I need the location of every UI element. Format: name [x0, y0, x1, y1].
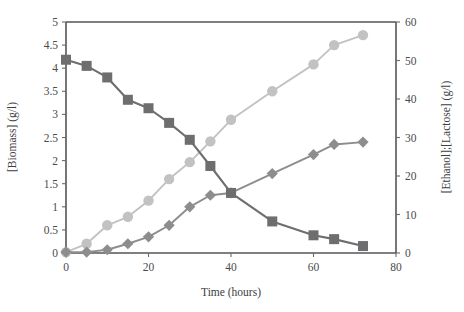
- data-point-marker: [205, 136, 215, 146]
- data-point-marker: [123, 212, 133, 222]
- data-point-marker: [358, 30, 368, 40]
- x-tick-label: 0: [63, 261, 69, 273]
- chart-figure: 00.511.522.533.544.55 0102030405060 0204…: [0, 0, 464, 312]
- data-point-marker: [185, 135, 195, 145]
- left-tick-label: 2.5: [44, 132, 59, 144]
- data-point-marker: [102, 72, 112, 82]
- fermentation-kinetics-chart: 00.511.522.533.544.55 0102030405060 0204…: [0, 0, 464, 312]
- data-point-marker: [226, 115, 236, 125]
- right-tick-label: 60: [405, 16, 417, 28]
- left-tick-label: 0: [52, 247, 58, 259]
- right-tick-label: 20: [405, 170, 417, 182]
- data-point-marker: [144, 103, 154, 113]
- right-tick-label: 40: [405, 93, 417, 105]
- data-point-marker: [358, 241, 368, 251]
- data-point-marker: [205, 161, 215, 171]
- data-point-marker: [329, 234, 339, 244]
- left-tick-label: 4.5: [44, 39, 59, 51]
- data-point-marker: [164, 118, 174, 128]
- data-point-marker: [309, 230, 319, 240]
- data-point-marker: [267, 86, 277, 96]
- data-point-marker: [308, 59, 318, 69]
- x-axis-title: Time (hours): [201, 286, 261, 299]
- right-tick-label: 30: [405, 132, 417, 144]
- data-point-marker: [143, 195, 153, 205]
- right-tick-label: 50: [405, 55, 417, 67]
- left-tick-label: 0.5: [44, 224, 59, 236]
- data-point-marker: [164, 174, 174, 184]
- data-point-marker: [61, 55, 71, 65]
- x-tick-label: 80: [390, 261, 402, 273]
- left-tick-label: 2: [52, 155, 58, 167]
- x-tick-label: 40: [225, 261, 237, 273]
- data-point-marker: [267, 216, 277, 226]
- left-tick-label: 5: [52, 16, 58, 28]
- right-axis-title: [Ethanol];[Lactose] (g/l): [440, 80, 453, 193]
- left-axis-title: [Biomass] (g/l): [6, 102, 19, 172]
- data-point-marker: [185, 157, 195, 167]
- x-tick-label: 60: [308, 261, 320, 273]
- left-tick-label: 1.5: [44, 178, 59, 190]
- left-tick-label: 3.5: [44, 85, 59, 97]
- x-tick-label: 20: [143, 261, 155, 273]
- left-tick-label: 3: [52, 108, 58, 120]
- right-tick-label: 10: [405, 209, 417, 221]
- data-point-marker: [329, 40, 339, 50]
- left-tick-label: 1: [52, 201, 58, 213]
- data-point-marker: [82, 61, 92, 71]
- left-tick-label: 4: [52, 62, 58, 74]
- data-point-marker: [123, 95, 133, 105]
- data-point-marker: [226, 188, 236, 198]
- data-point-marker: [102, 220, 112, 230]
- right-tick-label: 0: [405, 247, 411, 259]
